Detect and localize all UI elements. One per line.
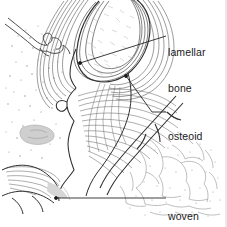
label-osteoid-line1: osteoid (168, 130, 203, 142)
island-bone-texture (84, 6, 136, 76)
lamellar-bone-island (74, 0, 148, 81)
osteocyte-cluster (20, 125, 54, 144)
osteoid-fan-lower (89, 83, 127, 152)
howships-lacunae (5, 18, 70, 56)
leader-woven (55, 197, 167, 200)
label-woven-bone-line1: woven (168, 210, 199, 222)
label-woven-bone: woven bone (168, 186, 199, 227)
leader-lamellar (79, 36, 167, 65)
histology-figure: lamellar bone osteoid woven bone (0, 0, 227, 227)
label-lamellar-bone-line1: lamellar (168, 46, 206, 58)
label-lamellar-bone: lamellar bone (168, 22, 206, 118)
label-osteoid: osteoid (168, 106, 203, 166)
label-lamellar-bone-line2: bone (168, 82, 206, 94)
resorption-margin (56, 49, 76, 201)
